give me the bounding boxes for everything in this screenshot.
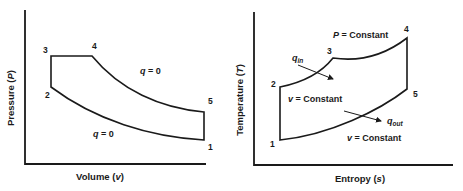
pv-point-1: 1 [208,142,213,152]
ts-point-4: 4 [404,24,409,34]
thermodynamic-cycle-diagrams: Volume (v) Pressure (P) 3 4 2 5 1 q = 0 … [0,0,463,191]
ts-point-2: 2 [271,79,276,89]
ts-point-5: 5 [413,89,418,99]
ts-heat-out-label: qout [387,116,403,127]
pv-point-4: 4 [92,41,97,51]
ts-point-1: 1 [270,139,275,149]
ts-y-axis-label: Temperature (T) [234,64,245,136]
pv-point-5: 5 [208,96,213,106]
pv-point-3: 3 [43,45,48,55]
pv-point-2: 2 [45,90,50,100]
ts-diagram: Entropy (s) Temperature (T) 2 3 4 5 1 P … [234,12,453,184]
heat-out-arrow-icon [344,111,381,121]
pv-cycle-path [51,56,204,140]
pv-y-axis-label: Pressure (P) [5,70,16,126]
ts-heat-in-label: qin [292,53,303,64]
pv-x-axis-label: Volume (v) [76,171,124,182]
pv-diagram: Volume (v) Pressure (P) 3 4 2 5 1 q = 0 … [5,10,213,182]
ts-point-3: 3 [327,46,332,56]
pv-lower-adiabatic-label: q = 0 [93,129,114,139]
ts-x-axis-label: Entropy (s) [335,173,385,184]
ts-constant-volume-lower-label: v = Constant [347,133,401,143]
pv-upper-adiabatic-label: q = 0 [140,66,161,76]
ts-constant-volume-upper-label: v = Constant [288,94,342,104]
ts-constant-pressure-label: P = Constant [333,30,388,40]
heat-in-arrow-icon [298,65,333,79]
